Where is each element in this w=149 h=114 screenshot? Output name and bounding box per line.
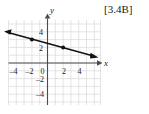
x-tick-label-neg2: –2 [25, 67, 34, 76]
graph-svg: x y –4 –2 0 2 4 2 4 –2 –4 [0, 0, 110, 114]
plotted-line [4, 29, 99, 58]
coordinate-graph: x y –4 –2 0 2 4 2 4 –2 –4 [0, 0, 110, 114]
marked-point [61, 45, 65, 49]
x-axis-label: x [103, 58, 108, 68]
screenshot-root: [3.4B] [0, 0, 149, 114]
line-arrow-left [4, 29, 12, 35]
x-tick-label-neg4: –4 [9, 67, 18, 76]
y-tick-label-neg4: –4 [35, 90, 44, 99]
x-axis-arrow [97, 60, 103, 66]
y-tick-label-4: 4 [39, 28, 43, 37]
y-tick-label-neg2: –2 [35, 75, 44, 84]
x-tick-label-2: 2 [62, 67, 66, 76]
y-axis-label: y [49, 5, 54, 15]
line-segment [9, 33, 94, 56]
x-tick-label-4: 4 [78, 67, 82, 76]
y-tick-label-2: 2 [39, 44, 43, 53]
marked-point [30, 38, 34, 42]
